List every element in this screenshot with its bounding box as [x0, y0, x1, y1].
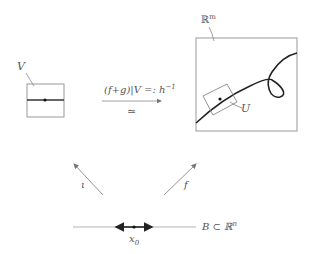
f-arrow [164, 164, 196, 195]
label-v: V [17, 61, 25, 72]
label-u: U [241, 103, 250, 114]
v-box [26, 73, 64, 117]
rm-box [196, 27, 297, 131]
label-f: f [184, 180, 188, 190]
label-x0: x0 [129, 234, 139, 247]
label-rm: ℝm [201, 14, 216, 25]
label-iota: ι [81, 180, 85, 190]
label-b-subset-rn: B ⊂ ℝn [202, 221, 237, 232]
diagram-canvas [0, 0, 313, 254]
label-h-inverse: (f+g)|V =: h−1 [104, 84, 176, 95]
iota-arrow [74, 164, 103, 195]
b-line [73, 225, 196, 228]
label-iso: ≃ [127, 106, 136, 117]
